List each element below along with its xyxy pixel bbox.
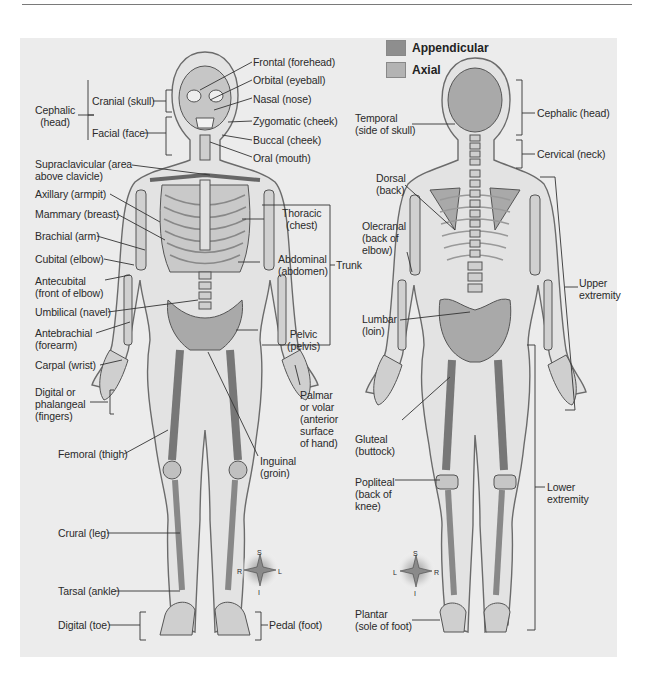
- label-oral: Oral (mouth): [253, 152, 311, 164]
- label-lower-extremity: Lower extremity: [547, 481, 589, 505]
- label-frontal: Frontal (forehead): [253, 56, 335, 68]
- label-palmar: Palmar or volar (anterior surface of han…: [300, 389, 338, 449]
- label-plantar: Plantar (sole of foot): [355, 608, 412, 632]
- label-lumbar: Lumbar (loin): [362, 313, 397, 337]
- label-digital-fingers: Digital or phalangeal (fingers): [35, 386, 85, 422]
- label-gluteal: Gluteal (buttock): [355, 433, 395, 457]
- compass-posterior-right: R: [434, 567, 439, 579]
- legend-item-axial: Axial: [386, 62, 441, 78]
- label-trunk: Trunk: [336, 259, 362, 271]
- label-cephalic-head: Cephalic (head): [537, 107, 610, 119]
- legend-item-appendicular: Appendicular: [386, 40, 489, 56]
- compass-anterior-bottom: I: [258, 587, 260, 599]
- label-umbilical: Umbilical (navel): [35, 306, 111, 318]
- label-orbital: Orbital (eyeball): [253, 74, 325, 86]
- label-temporal: Temporal (side of skull): [355, 112, 415, 136]
- label-digital-toe: Digital (toe): [58, 619, 110, 631]
- legend-label-appendicular: Appendicular: [412, 41, 489, 55]
- compass-posterior-left: L: [393, 567, 397, 579]
- label-popliteal: Popliteal (back of knee): [355, 476, 394, 512]
- label-femoral: Femoral (thigh): [58, 448, 128, 460]
- label-buccal: Buccal (cheek): [253, 134, 321, 146]
- label-cubital: Cubital (elbow): [35, 253, 104, 265]
- swatch-appendicular: [386, 40, 406, 56]
- legend-label-axial: Axial: [412, 63, 441, 77]
- label-carpal: Carpal (wrist): [35, 359, 96, 371]
- label-abdominal: Abdominal (abdomen): [278, 253, 328, 277]
- label-dorsal: Dorsal (back): [376, 172, 406, 196]
- label-cervical: Cervical (neck): [537, 148, 606, 160]
- label-pelvic: Pelvic (pelvis): [287, 328, 320, 352]
- label-olecranal: Olecranal (back of elbow): [362, 220, 406, 256]
- compass-anterior-top: S: [257, 547, 262, 559]
- label-brachial: Brachial (arm): [35, 230, 100, 242]
- compass-posterior-top: S: [413, 548, 418, 560]
- label-tarsal: Tarsal (ankle): [58, 585, 120, 597]
- label-mammary: Mammary (breast): [35, 208, 119, 220]
- label-antebrachial: Antebrachial (forearm): [35, 327, 92, 351]
- label-upper-extremity: Upper extremity: [579, 277, 621, 301]
- label-antecubital: Antecubital (front of elbow): [35, 275, 103, 299]
- label-facial: Facial (face): [92, 127, 148, 139]
- label-axillary: Axillary (armpit): [35, 188, 106, 200]
- label-cephalic: Cephalic (head): [35, 104, 75, 128]
- compass-posterior-bottom: I: [414, 588, 416, 600]
- label-nasal: Nasal (nose): [253, 93, 311, 105]
- label-crural: Crural (leg): [58, 527, 109, 539]
- label-inguinal: Inguinal (groin): [260, 455, 296, 479]
- label-pedal: Pedal (foot): [269, 619, 322, 631]
- label-zygomatic: Zygomatic (cheek): [253, 115, 338, 127]
- compass-anterior-right: L: [278, 566, 282, 578]
- label-thoracic: Thoracic (chest): [282, 207, 321, 231]
- posterior-figure: [366, 58, 586, 632]
- swatch-axial: [386, 62, 406, 78]
- compass-anterior-left: R: [237, 566, 242, 578]
- label-supraclavicular: Supraclavicular (area above clavicle): [35, 158, 132, 182]
- label-cranial: Cranial (skull): [92, 95, 155, 107]
